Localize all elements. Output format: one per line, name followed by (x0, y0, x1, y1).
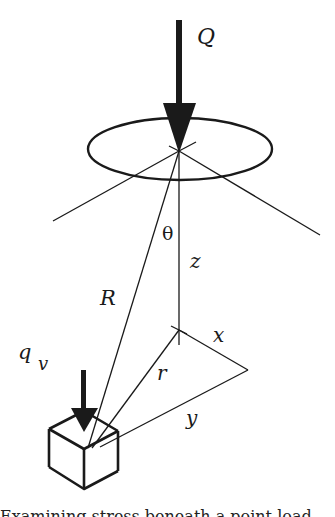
label-R: R (99, 286, 116, 310)
stress-diagram: Q θ z R q v x r y (0, 0, 335, 517)
component-line-y (100, 370, 248, 447)
figure-caption-partial: Examining stress beneath a point load (0, 508, 335, 517)
label-r: r (157, 361, 168, 385)
label-z: z (189, 249, 201, 273)
horizontal-line-r (92, 330, 179, 448)
surface-plane-lines (53, 142, 320, 235)
label-y: y (185, 406, 198, 430)
load-arrow-icon (163, 20, 196, 153)
label-x: x (213, 323, 224, 347)
label-theta: θ (162, 222, 173, 244)
label-Q: Q (197, 24, 215, 49)
label-q: q (18, 340, 31, 364)
stress-arrow-icon (71, 370, 98, 432)
label-q-subscript-v: v (38, 353, 48, 374)
